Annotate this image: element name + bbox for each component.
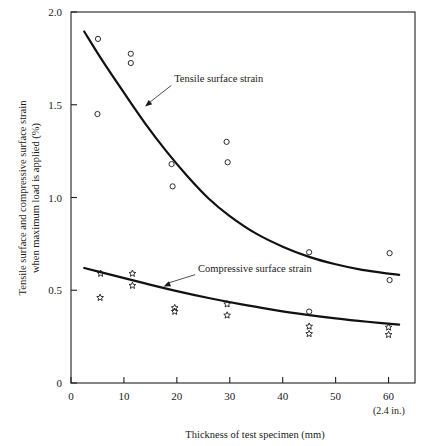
data-point-compressive-3 [129,282,136,288]
data-point-compressive-5 [171,308,178,314]
y-tick-label-0: 0 [57,377,63,389]
annotation-arrowhead-1 [164,281,172,286]
chart-figure: 00.51.01.52.0 0102030405060 Tensile surf… [0,0,428,446]
x-tick-label-60: 60 [383,390,395,402]
y-axis: 00.51.01.52.0 [48,6,77,389]
data-point-compressive-2 [129,270,136,276]
data-point-compressive-9 [306,330,313,336]
x-tick-label-30: 30 [224,390,236,402]
x-tick-label-20: 20 [171,390,183,402]
data-point-tensile-0 [95,111,100,116]
x-tick-label-50: 50 [330,390,342,402]
plot-frame [71,12,415,383]
data-point-tensile-7 [225,160,230,165]
annotation-label-0: Tensile surface strain [174,73,264,84]
chart-annotations: Tensile surface strainCompressive surfac… [145,73,312,286]
x-axis-secondary-note: (2.4 in.) [373,405,405,417]
plot-border [71,12,415,383]
data-point-tensile-4 [169,162,174,167]
data-point-tensile-3 [128,60,133,65]
data-point-compressive-8 [306,323,313,329]
x-tick-label-10: 10 [118,390,130,402]
strain-vs-thickness-chart: 00.51.01.52.0 0102030405060 Tensile surf… [0,0,428,446]
x-tick-label-0: 0 [68,390,74,402]
data-point-tensile-11 [387,277,392,282]
y-axis-title: Tensile surface and compressive surface … [17,100,42,296]
y-tick-label-1.0: 1.0 [48,192,62,204]
x-axis: 0102030405060 [68,377,394,402]
data-point-compressive-1 [97,294,104,300]
y-tick-label-0.5: 0.5 [48,284,62,296]
fit-curve-0 [84,31,399,274]
annotation-leader-0 [148,85,171,103]
data-point-tensile-9 [307,309,312,314]
data-point-tensile-5 [170,184,175,189]
data-point-compressive-11 [385,331,392,337]
y-tick-label-1.5: 1.5 [48,99,62,111]
x-tick-label-40: 40 [277,390,289,402]
fit-curve-1 [84,268,399,325]
y-axis-title-line1: Tensile surface and compressive surface … [17,100,28,296]
data-point-tensile-1 [95,36,100,41]
data-point-tensile-2 [128,51,133,56]
annotation-leader-1 [167,275,195,284]
x-axis-title: Thickness of test specimen (mm) [185,429,325,441]
data-point-compressive-7 [224,312,231,318]
y-tick-label-2.0: 2.0 [48,6,62,18]
y-axis-title-line2: when maximum load is applied (%) [30,122,42,273]
data-point-tensile-10 [387,251,392,256]
annotation-label-1: Compressive surface strain [198,263,312,274]
data-point-tensile-6 [224,139,229,144]
data-point-tensile-8 [307,250,312,255]
